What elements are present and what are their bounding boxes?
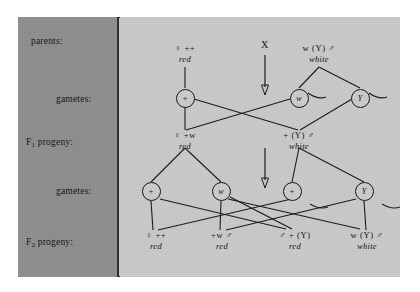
line-egg-to-f1-male (194, 99, 298, 130)
line-gplus2-to-f2-1 (158, 197, 300, 230)
line-f1male-to-gy (299, 148, 364, 182)
line-gw-to-f2-2 (220, 201, 221, 230)
line-f1female-to-gw (185, 148, 221, 182)
line-gplus-to-f2-1 (151, 201, 153, 230)
gamete-f1-sperm-y[interactable]: Y (355, 182, 374, 201)
line-gplus-to-f2-3 (160, 199, 286, 229)
line-father-to-w (299, 67, 319, 88)
line-gy-to-f2-4 (364, 201, 366, 230)
gamete-f1-sperm-plus[interactable]: + (283, 182, 302, 201)
f1-label-subscript: 1 (31, 141, 35, 149)
line-spermw-to-f1-female (186, 99, 290, 130)
tail-spermy (369, 93, 387, 98)
line-spermy-to-f1-male (300, 99, 352, 130)
line-father-to-y (319, 67, 360, 88)
gamete-sperm-w[interactable]: w (290, 89, 309, 108)
gamete-sperm-y[interactable]: Y (351, 89, 370, 108)
gamete-egg-plus[interactable]: + (176, 89, 195, 108)
line-f1male-to-gplus (292, 148, 299, 182)
line-gy-to-f2-2 (226, 199, 356, 230)
connector-lines (120, 17, 400, 277)
genetics-cross-figure: parents: gametes: F1 progeny: gametes: F… (0, 0, 420, 292)
f2-label-subscript: 2 (31, 241, 35, 249)
tail-gy2 (382, 204, 400, 208)
row-label-gametes-1: gametes: (56, 94, 91, 104)
tail-spermw (308, 93, 326, 98)
pedigree-diagram-panel: X ♀ ++ red w (Y) ♂ white + w Y ♀ +w red … (120, 17, 400, 277)
f1-label-suffix: progeny: (35, 137, 73, 147)
row-label-parents: parents: (31, 36, 63, 46)
f2-label-suffix: progeny: (35, 237, 73, 247)
gamete-f1-egg-plus[interactable]: + (142, 182, 161, 201)
line-f1female-to-gplus (151, 148, 185, 182)
row-label-f1-progeny: F1 progeny: (26, 137, 73, 147)
gamete-f1-egg-w[interactable]: w (212, 182, 231, 201)
row-label-f2-progeny: F2 progeny: (26, 237, 73, 247)
row-label-gametes-2: gametes: (56, 186, 91, 196)
